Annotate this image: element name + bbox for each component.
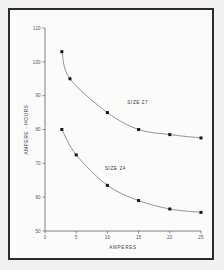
series-label-2: SIZE 24 xyxy=(105,166,126,171)
series-line xyxy=(62,52,201,138)
series-label-1: SIZE 27 xyxy=(127,100,148,105)
data-point-marker xyxy=(60,128,63,131)
data-point-marker xyxy=(168,208,171,211)
chart-plot-area: 5060708090100110 0510152025 SIZE 27SIZE … xyxy=(0,0,224,270)
y-axis-title: AMPERE - HOURS xyxy=(24,105,29,155)
x-tick-label: 10 xyxy=(105,235,111,240)
x-axis-ticks: 0510152025 xyxy=(44,231,204,240)
y-tick-label: 60 xyxy=(35,195,41,200)
y-tick-label: 90 xyxy=(35,93,41,98)
series-line xyxy=(62,130,201,213)
data-point-marker xyxy=(168,133,171,136)
x-tick-label: 25 xyxy=(198,235,204,240)
x-tick-label: 0 xyxy=(44,235,47,240)
data-point-marker xyxy=(60,50,63,53)
data-series-layer xyxy=(60,50,202,214)
y-tick-label: 70 xyxy=(35,161,41,166)
x-tick-label: 15 xyxy=(136,235,142,240)
data-point-marker xyxy=(106,184,109,187)
data-point-marker xyxy=(200,136,203,139)
x-tick-label: 20 xyxy=(167,235,173,240)
y-tick-label: 80 xyxy=(35,127,41,132)
data-point-marker xyxy=(137,199,140,202)
series-annotations: SIZE 27SIZE 24 xyxy=(105,100,148,171)
x-tick-label: 5 xyxy=(75,235,78,240)
x-axis-title: AMPERES xyxy=(109,245,136,250)
y-tick-label: 50 xyxy=(35,229,41,234)
data-point-marker xyxy=(200,211,203,214)
data-point-marker xyxy=(106,111,109,114)
figure-container: 5060708090100110 0510152025 SIZE 27SIZE … xyxy=(0,0,224,270)
y-tick-label: 100 xyxy=(33,60,41,65)
data-point-marker xyxy=(68,77,71,80)
data-point-marker xyxy=(75,153,78,156)
y-tick-label: 110 xyxy=(33,26,41,31)
data-point-marker xyxy=(137,128,140,131)
y-axis-ticks: 5060708090100110 xyxy=(33,26,45,234)
